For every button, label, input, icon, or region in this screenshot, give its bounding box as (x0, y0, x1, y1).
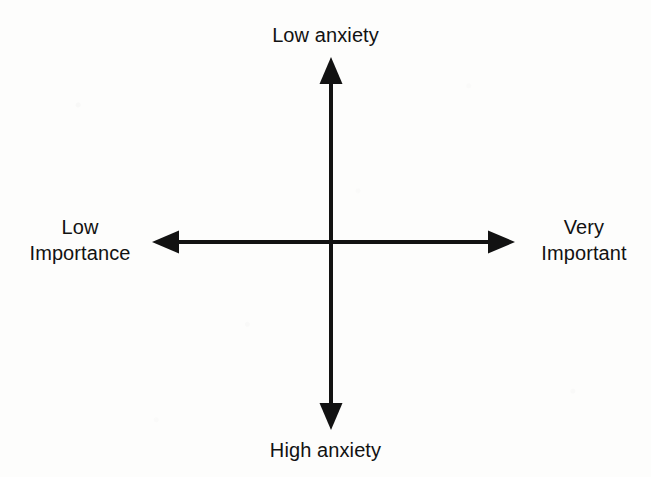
arrowhead-down-icon (320, 403, 343, 430)
axis-label-bottom: High anxiety (0, 437, 651, 463)
arrowhead-right-icon (488, 231, 515, 254)
arrowhead-up-icon (320, 57, 343, 84)
axis-label-right: Very Important (522, 214, 646, 266)
axis-label-left: Low Importance (0, 214, 160, 266)
diagram-canvas: Low anxiety High anxiety Low Importance … (0, 0, 651, 477)
axis-label-top: Low anxiety (0, 22, 651, 48)
